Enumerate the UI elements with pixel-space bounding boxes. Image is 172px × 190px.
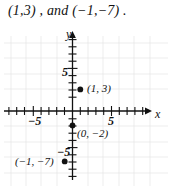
coordinate-graph: y x 5 −5 −5 5 (1, 3) (0, −2) (−1, −7) xyxy=(0,26,172,190)
equation-header: (1,3) , and (−1,−7) . xyxy=(0,0,172,26)
point-label-1-3: (1, 3) xyxy=(87,83,111,94)
point-label-0-neg2: (0, −2) xyxy=(77,128,108,139)
x-axis-arrow xyxy=(145,108,152,115)
point-marker-neg1-neg7 xyxy=(62,159,68,165)
point-marker-0-neg2 xyxy=(70,123,76,129)
y-axis-label: y xyxy=(66,28,71,40)
y-tick-label-negative: −5 xyxy=(57,146,70,158)
x-axis-label: x xyxy=(155,108,160,120)
y-tick-label-positive: 5 xyxy=(62,66,68,78)
equation-text: (1,3) , and (−1,−7) . xyxy=(8,3,127,19)
point-label-neg1-neg7: (−1, −7) xyxy=(15,156,54,167)
x-tick-label-positive: 5 xyxy=(108,115,114,127)
point-marker-1-3 xyxy=(77,87,83,93)
x-tick-label-negative: −5 xyxy=(28,115,41,127)
